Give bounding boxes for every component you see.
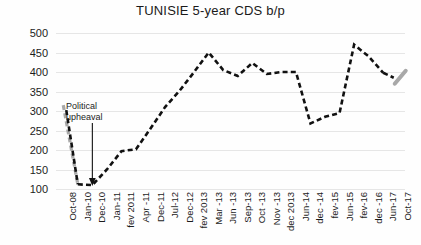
series-line [0, 0, 421, 245]
annotation-political-upheaval: Political upheaval [66, 101, 103, 123]
series-path-main [78, 45, 383, 185]
chart-container: TUNISIE 5-year CDS b/p 50045040035030025… [0, 0, 421, 245]
series-endpoint-end [395, 71, 406, 84]
series-path-end [383, 73, 394, 78]
